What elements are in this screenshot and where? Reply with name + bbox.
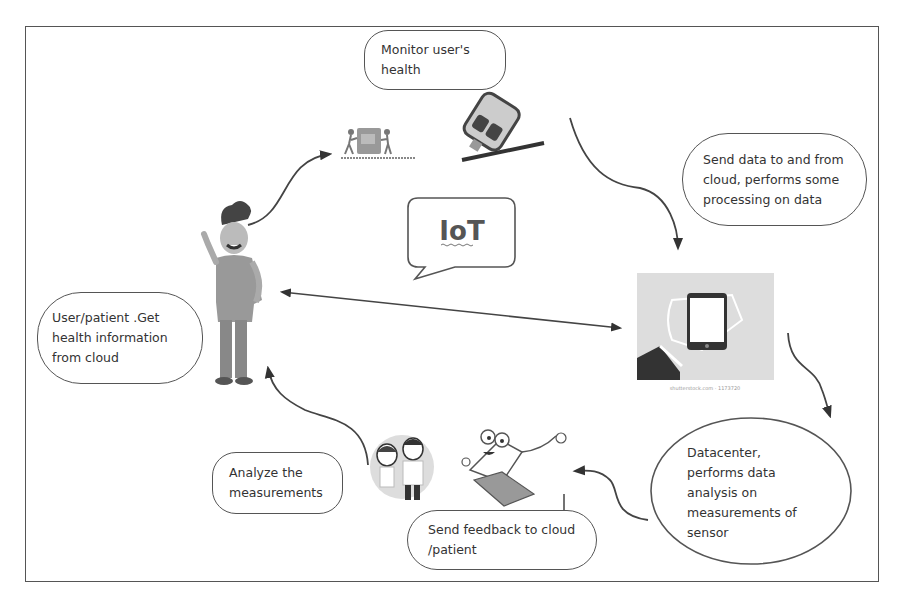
arrow-meter-to-phone (570, 118, 678, 248)
node-label: User/patient .Get health information fro… (52, 308, 168, 368)
node-send-data: Send data to and from cloud, performs so… (682, 133, 867, 226)
node-send-feedback: Send feedback to cloud /patient (407, 510, 597, 570)
arrow-user-to-monitor (248, 154, 330, 225)
arrow-datacenter-to-laptop (575, 471, 648, 520)
node-datacenter: Datacenter, performs data analysis on me… (687, 438, 827, 548)
node-label: Analyze the measurements (229, 463, 323, 503)
node-label: Send feedback to cloud /patient (428, 520, 575, 560)
laptop-character-icon (462, 430, 566, 506)
node-label: Datacenter, performs data analysis on me… (687, 443, 797, 543)
svg-text:shutterstock.com · 1173720: shutterstock.com · 1173720 (670, 385, 741, 391)
arrow-doctors-to-user (268, 368, 368, 465)
node-monitor-health: Monitor user's health (364, 30, 506, 90)
arrow-user-phone-bidirectional (282, 292, 620, 328)
node-analyze: Analyze the measurements (212, 452, 343, 514)
health-monitoring-icon (341, 128, 415, 158)
node-label: Send data to and from cloud, performs so… (703, 150, 844, 210)
user-character-icon (204, 201, 262, 385)
doctors-icon (370, 435, 434, 500)
node-label: Monitor user's health (381, 40, 470, 80)
smartphone-in-hand-icon: shutterstock.com · 1173720 (637, 273, 774, 391)
iot-speech-bubble: IoT (408, 198, 515, 279)
svg-text:IoT: IoT (439, 216, 485, 246)
node-user-patient: User/patient .Get health information fro… (37, 292, 203, 384)
arrow-phone-to-datacenter (788, 333, 830, 416)
